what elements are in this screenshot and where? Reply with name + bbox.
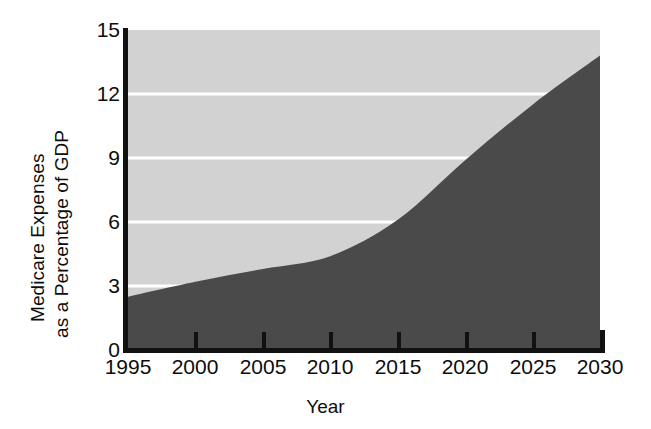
plot-area xyxy=(128,30,600,350)
area-series-fill xyxy=(128,56,600,350)
x-axis-title: Year xyxy=(0,396,651,418)
y-tick-label-3: 3 xyxy=(78,275,120,296)
y-tick-label-12: 12 xyxy=(78,83,120,104)
x-tick-label-2020: 2020 xyxy=(430,356,500,377)
y-tick-label-15: 15 xyxy=(78,19,120,40)
x-tick-2015 xyxy=(397,332,401,350)
area-chart-svg xyxy=(128,30,600,350)
x-tick-label-2010: 2010 xyxy=(295,356,365,377)
x-tick-2010 xyxy=(329,332,333,350)
x-axis-right-cap xyxy=(600,330,605,352)
x-tick-2005 xyxy=(262,332,266,350)
x-tick-2025 xyxy=(532,332,536,350)
x-tick-label-2015: 2015 xyxy=(363,356,433,377)
y-axis-title: Medicare Expenses as a Percentage of GDP xyxy=(0,0,70,360)
x-tick-2020 xyxy=(465,332,469,350)
x-tick-2000 xyxy=(194,332,198,350)
x-tick-label-2005: 2005 xyxy=(228,356,298,377)
y-axis-line xyxy=(123,28,128,352)
y-tick-label-6: 6 xyxy=(78,211,120,232)
y-axis-tick-labels: 15 12 9 6 3 0 xyxy=(74,0,120,380)
x-tick-label-1995: 1995 xyxy=(93,356,163,377)
x-tick-label-2000: 2000 xyxy=(160,356,230,377)
y-axis-title-line-2: as a Percentage of GDP xyxy=(51,130,73,338)
x-tick-label-2030: 2030 xyxy=(565,356,635,377)
x-tick-label-2025: 2025 xyxy=(498,356,568,377)
chart-figure: Medicare Expenses as a Percentage of GDP… xyxy=(0,0,651,429)
y-axis-title-line-1: Medicare Expenses xyxy=(27,153,49,322)
y-tick-label-9: 9 xyxy=(78,147,120,168)
